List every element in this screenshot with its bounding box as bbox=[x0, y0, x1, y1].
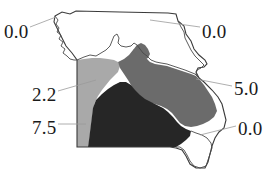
leader-line-nw bbox=[30, 17, 56, 27]
value-label-west: 2.2 bbox=[32, 85, 56, 104]
missouri-choropleth-figure: 0.0 0.0 2.2 5.0 7.5 0.0 bbox=[0, 0, 280, 171]
value-label-south: 7.5 bbox=[32, 118, 56, 137]
value-label-east: 5.0 bbox=[234, 79, 258, 98]
value-label-northeast: 0.0 bbox=[202, 22, 226, 41]
value-label-northwest: 0.0 bbox=[4, 22, 28, 41]
value-label-bootheel: 0.0 bbox=[238, 119, 262, 138]
